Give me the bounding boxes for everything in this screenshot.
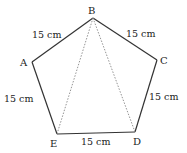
vertex-label-b: B	[88, 5, 95, 16]
side-label-bc: 15 cm	[126, 28, 155, 39]
side-label-ab: 15 cm	[32, 29, 61, 40]
vertex-label-a: A	[19, 57, 28, 68]
side-label-de: 15 cm	[81, 136, 110, 147]
side-ab	[32, 18, 93, 62]
side-bc	[93, 18, 157, 60]
vertex-label-d: D	[133, 136, 141, 147]
vertex-label-c: C	[160, 55, 168, 66]
vertex-label-e: E	[50, 138, 57, 149]
side-label-cd: 15 cm	[149, 91, 178, 102]
diagram-svg: B A C E D 15 cm 15 cm 15 cm 15 cm 15 cm	[0, 0, 187, 153]
side-de	[57, 132, 135, 134]
side-ea	[32, 62, 57, 134]
diagonal-be	[57, 18, 93, 134]
pentagon-diagram: B A C E D 15 cm 15 cm 15 cm 15 cm 15 cm	[0, 0, 187, 153]
side-label-ea: 15 cm	[4, 93, 33, 104]
